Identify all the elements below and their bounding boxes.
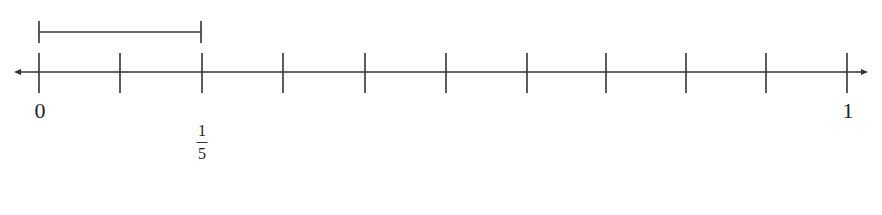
- fraction-denominator: 5: [198, 146, 206, 162]
- label-one: 1: [843, 100, 854, 122]
- fraction-numerator: 1: [198, 123, 206, 139]
- label-zero: 0: [35, 100, 46, 122]
- label-one-fifth: 1 5: [197, 123, 208, 162]
- number-line-diagram: [0, 0, 882, 215]
- length-bracket: [39, 21, 201, 43]
- fraction-bar: [197, 142, 208, 143]
- tick-marks: [39, 53, 847, 93]
- left-arrow-icon: [14, 69, 21, 75]
- right-arrow-icon: [861, 69, 868, 75]
